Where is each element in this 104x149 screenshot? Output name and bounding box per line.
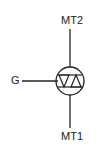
down-triangle-icon [59,75,69,87]
gate-label: G [11,75,20,86]
mt2-label: MT2 [61,15,83,26]
mt1-label: MT1 [61,131,83,142]
triac-body-circle [56,67,84,95]
up-triangle-icon [71,75,81,87]
